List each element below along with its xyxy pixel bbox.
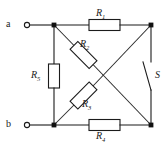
diagonal-bl-tr-upper <box>93 25 151 86</box>
node-top-left <box>52 23 57 28</box>
diagonal-bl-tr-lower <box>54 105 74 125</box>
resistor-R3-label: R3 <box>82 99 91 112</box>
resistor-R4-label: R4 <box>96 131 105 144</box>
switch-S-label: S <box>155 70 160 80</box>
circuit-diagram: R1 R2 R3 R4 R5 S a b <box>0 0 168 152</box>
node-bottom-left <box>52 123 57 128</box>
diagonal-tl-br-lower <box>93 65 151 126</box>
resistor-R1-body <box>89 20 120 31</box>
terminal-a-label: a <box>6 19 10 29</box>
switch-blade[interactable] <box>143 62 151 90</box>
diagonal-tl-br-upper <box>54 25 74 46</box>
terminal-a-connector <box>24 22 29 27</box>
resistor-R5-label: R5 <box>31 70 40 83</box>
terminal-b-label: b <box>6 119 11 129</box>
resistor-R4-body <box>89 120 120 131</box>
schematic-canvas <box>0 0 168 152</box>
node-bottom-right <box>149 123 154 128</box>
resistor-R2-label: R2 <box>80 39 89 52</box>
resistor-R1-label: R1 <box>96 8 105 21</box>
terminal-b-connector <box>24 122 29 127</box>
node-top-right <box>149 23 154 28</box>
resistor-R5-body <box>49 64 60 88</box>
